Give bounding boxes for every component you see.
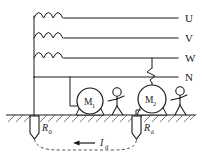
fault-current-arrow-head-icon	[73, 140, 80, 145]
electrode-rd-label: R	[143, 122, 150, 133]
phase-label-v: V	[185, 32, 193, 44]
winding-w	[34, 53, 63, 59]
fault-zigzag-icon	[147, 68, 155, 83]
winding-v	[34, 33, 63, 39]
fault-current-label: I	[99, 137, 104, 148]
winding-u	[34, 13, 63, 19]
motor-m2-subscript: 2	[153, 100, 156, 107]
person-near-m1	[108, 88, 124, 115]
electrode-r0-label: R	[41, 122, 48, 133]
fault-current-subscript: d	[105, 143, 109, 150]
electrode-r0-subscript: 0	[49, 128, 52, 135]
person-near-m1-arm-left	[108, 99, 117, 101]
person-near-m2-arm-left	[171, 98, 180, 100]
circuit-diagram: U V W N M 1 M 2 R 0 R d I d	[0, 0, 202, 161]
electrode-rd	[132, 116, 141, 139]
electrode-rd-subscript: d	[151, 128, 155, 135]
diagram-canvas: U V W N M 1 M 2 R 0 R d I d	[0, 0, 202, 161]
person-near-m2-leg-right	[180, 105, 186, 115]
person-near-m2-head	[176, 87, 184, 95]
electrode-r0-body	[30, 116, 39, 139]
fault-current-loop-path	[35, 139, 137, 150]
person-near-m1-leg-left	[112, 106, 117, 115]
person-near-m1-leg-right	[117, 106, 123, 115]
electrode-r0	[30, 116, 39, 139]
person-near-m1-head	[113, 88, 121, 96]
phase-label-w: W	[185, 52, 196, 64]
person-near-m2	[171, 87, 187, 115]
phase-label-n: N	[185, 71, 193, 83]
person-near-m2-leg-left	[175, 105, 180, 115]
motor-m1-subscript: 1	[92, 102, 95, 109]
phase-label-u: U	[185, 12, 193, 24]
fault-current-arrow	[73, 140, 95, 145]
electrode-rd-body	[132, 116, 141, 139]
